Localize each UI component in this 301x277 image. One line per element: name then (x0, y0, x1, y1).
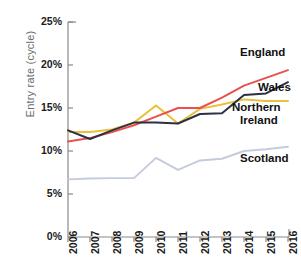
x-tick-label: 2006 (67, 231, 79, 254)
series-label-northern-ireland-line2: Ireland (240, 114, 278, 126)
x-tick-label: 2016 (287, 231, 299, 254)
series-label-northern-ireland-line1: Northern (232, 101, 281, 113)
y-tick-label: 5% (28, 187, 62, 199)
x-tick-label: 2008 (111, 231, 123, 254)
x-tick-label: 2009 (133, 231, 145, 254)
chart-figure: Entry rate (cycle) 0%5%10%15%20%25% 2006… (0, 0, 301, 277)
y-tick-marks (68, 22, 73, 237)
x-tick-label: 2011 (177, 231, 189, 254)
y-tick-label: 10% (28, 144, 62, 156)
x-tick-label: 2013 (221, 231, 233, 254)
series-label-scotland: Scotland (240, 152, 289, 164)
x-tick-label: 2007 (89, 231, 101, 254)
y-tick-label: 15% (28, 101, 62, 113)
series-label-england: England (240, 46, 285, 58)
x-tick-label: 2015 (265, 231, 277, 254)
y-tick-label: 20% (28, 58, 62, 70)
y-tick-label: 0% (28, 230, 62, 242)
series-label-wales: Wales (258, 81, 291, 93)
y-tick-label: 25% (28, 15, 62, 27)
x-tick-label: 2014 (243, 231, 255, 254)
x-tick-label: 2010 (155, 231, 167, 254)
x-tick-label: 2012 (199, 231, 211, 254)
